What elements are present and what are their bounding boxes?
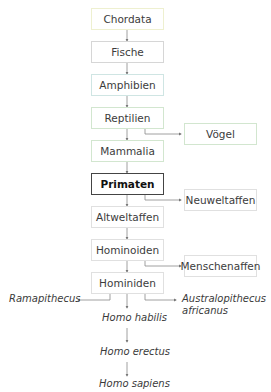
label-africanus: africanus [182, 305, 228, 316]
node-label: Neuweltaffen [186, 194, 256, 206]
node-menschenaffen: Menschenaffen [184, 255, 257, 277]
node-voegel: Vögel [184, 123, 257, 145]
node-label: Chordata [103, 13, 151, 25]
node-label: Amphibien [99, 79, 155, 91]
node-label: Mammalia [100, 145, 155, 157]
node-hominiden: Hominiden [91, 272, 164, 294]
node-label: Reptilien [105, 112, 151, 124]
node-primaten: Primaten [91, 173, 164, 195]
node-neuweltaffen: Neuweltaffen [184, 189, 257, 211]
node-altweltaffen: Altweltaffen [91, 206, 164, 228]
label-ramapithecus: Ramapithecus [9, 293, 81, 304]
label-homo-sapiens: Homo sapiens [99, 378, 170, 389]
node-fische: Fische [91, 41, 164, 63]
node-label: Hominiden [99, 277, 156, 289]
node-amphibien: Amphibien [91, 74, 164, 96]
node-label: Altweltaffen [96, 211, 159, 223]
node-label: Vögel [206, 128, 235, 140]
label-homo-erectus: Homo erectus [100, 346, 170, 357]
label-australopithecus: Australopithecus [182, 293, 266, 304]
node-label: Hominoiden [96, 244, 159, 256]
node-mammalia: Mammalia [91, 140, 164, 162]
node-hominoiden: Hominoiden [91, 239, 164, 261]
node-reptilien: Reptilien [91, 107, 164, 129]
node-label: Primaten [100, 178, 154, 190]
label-homo-habilis: Homo habilis [102, 312, 167, 323]
node-label: Menschenaffen [181, 260, 261, 272]
node-label: Fische [111, 46, 144, 58]
node-chordata: Chordata [91, 8, 164, 30]
